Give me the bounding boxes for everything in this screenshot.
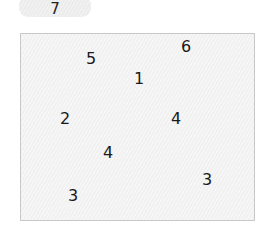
- game-board[interactable]: 5 6 1 2 4 4 3 3: [20, 33, 255, 221]
- number-tile[interactable]: 3: [68, 188, 78, 204]
- number-tile[interactable]: 1: [134, 71, 144, 87]
- counter-value: 7: [50, 1, 60, 17]
- number-tile[interactable]: 5: [86, 51, 96, 67]
- number-tile[interactable]: 3: [202, 172, 212, 188]
- counter-badge: 7: [19, 0, 91, 17]
- number-tile[interactable]: 4: [103, 145, 113, 161]
- number-tile[interactable]: 4: [171, 111, 181, 127]
- number-tile[interactable]: 2: [60, 111, 70, 127]
- number-tile[interactable]: 6: [181, 39, 191, 55]
